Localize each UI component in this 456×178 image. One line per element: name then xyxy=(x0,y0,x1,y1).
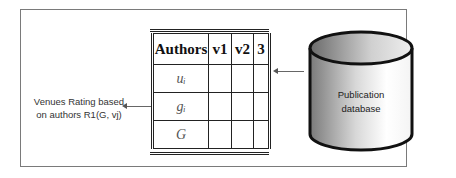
rating-cell xyxy=(209,65,232,93)
rating-cell xyxy=(254,121,270,149)
table-header-row: Authors v1 v2 3 xyxy=(153,34,270,65)
database-label-line1: Publication xyxy=(306,88,416,102)
rating-cell xyxy=(232,121,254,149)
database-label-line2: database xyxy=(306,102,416,116)
authors-venues-table: Authors v1 v2 3 uᵢ gᵢ G xyxy=(151,33,271,149)
rating-cell xyxy=(209,121,232,149)
header-v1: v1 xyxy=(209,34,232,65)
table-bottom-rule xyxy=(150,152,269,155)
header-v2: v2 xyxy=(232,34,254,65)
header-authors: Authors xyxy=(153,34,209,65)
arrow-to-rating-icon xyxy=(126,106,152,107)
author-cell: gᵢ xyxy=(153,93,209,121)
table-row: gᵢ xyxy=(153,93,270,121)
rating-cell xyxy=(254,93,270,121)
venues-rating-label-line2: on authors R1(G, vj) xyxy=(24,108,134,121)
author-cell: uᵢ xyxy=(153,65,209,93)
rating-cell xyxy=(232,65,254,93)
venues-rating-label: Venues Rating based on authors R1(G, vj) xyxy=(24,95,134,121)
table-top-rule xyxy=(150,29,269,32)
rating-cell xyxy=(254,65,270,93)
header-3: 3 xyxy=(254,34,270,65)
venues-rating-label-line1: Venues Rating based xyxy=(24,95,134,108)
arrow-from-database-icon xyxy=(277,71,304,72)
author-cell: G xyxy=(153,121,209,149)
rating-cell xyxy=(232,93,254,121)
database-label: Publication database xyxy=(306,88,416,116)
rating-cell xyxy=(209,93,232,121)
table-row: G xyxy=(153,121,270,149)
table-row: uᵢ xyxy=(153,65,270,93)
